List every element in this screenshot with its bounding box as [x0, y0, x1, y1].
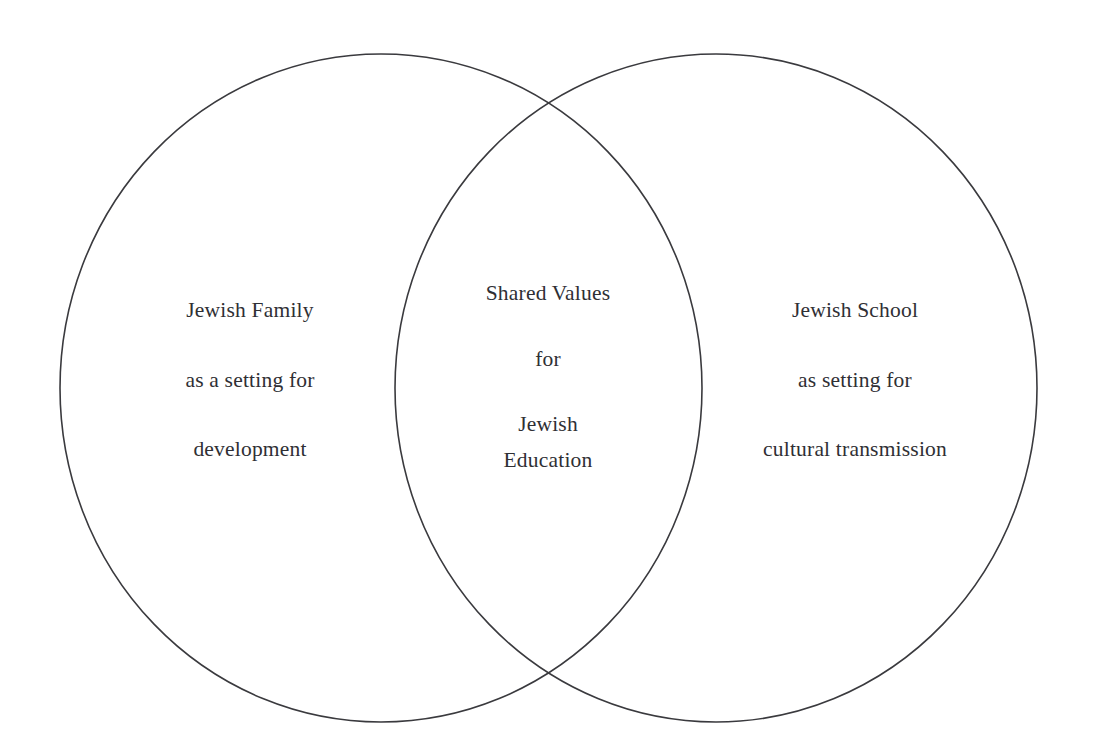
overlap-set-label-line-1: Shared Values — [443, 283, 653, 305]
overlap-set-label-line-3: Jewish — [443, 414, 653, 436]
overlap-set-label: Shared Values for Jewish Education — [443, 283, 653, 471]
right-set-label: Jewish School as setting for cultural tr… — [710, 300, 1000, 461]
right-set-label-line-2: as setting for — [710, 370, 1000, 392]
left-set-label-line-3: development — [110, 439, 390, 461]
left-set-label-line-2: as a setting for — [110, 370, 390, 392]
right-set-label-line-1: Jewish School — [710, 300, 1000, 322]
left-set-label: Jewish Family as a setting for developme… — [110, 300, 390, 461]
overlap-set-label-line-4: Education — [443, 450, 653, 472]
right-set-label-line-3: cultural transmission — [710, 439, 1000, 461]
venn-diagram-canvas: Jewish Family as a setting for developme… — [0, 0, 1095, 755]
left-set-label-line-1: Jewish Family — [110, 300, 390, 322]
overlap-set-label-line-2: for — [443, 349, 653, 371]
